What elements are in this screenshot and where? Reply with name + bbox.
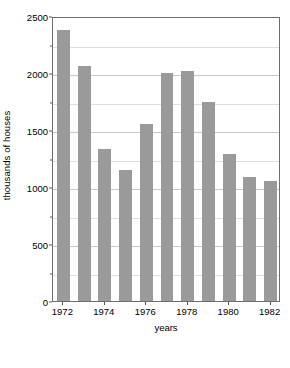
- x-axis-title: years: [52, 322, 280, 333]
- x-axis-tick-mark: [228, 302, 229, 305]
- bar: [161, 73, 174, 301]
- x-axis-tick-label: 1982: [259, 306, 280, 317]
- x-axis-tick-mark: [104, 302, 105, 305]
- x-axis-tick-mark: [62, 302, 63, 305]
- y-axis-title: thousands of houses: [0, 0, 14, 310]
- y-axis-tick-label: 1000: [27, 183, 48, 194]
- y-axis-tick-label: 2500: [27, 12, 48, 23]
- y-axis-tick-label: 2000: [27, 69, 48, 80]
- bar: [57, 30, 70, 301]
- bar: [119, 170, 132, 301]
- x-axis-tick-label: 1980: [218, 306, 239, 317]
- bar: [202, 102, 215, 302]
- x-axis-tick-labels: 197219741976197819801982: [52, 303, 280, 323]
- bar-chart: thousands of houses 05001000150020002500…: [0, 0, 290, 368]
- bar: [98, 149, 111, 301]
- y-axis-tick-label: 0: [43, 297, 48, 308]
- y-axis-tick-label: 500: [32, 240, 48, 251]
- bar: [78, 66, 91, 301]
- y-axis-title-text: thousands of houses: [2, 110, 13, 200]
- x-axis-tick-mark: [270, 302, 271, 305]
- x-axis-tick-label: 1978: [176, 306, 197, 317]
- bar-series: [53, 18, 279, 301]
- bar: [264, 181, 277, 301]
- bar: [223, 154, 236, 301]
- bar: [243, 177, 256, 301]
- x-axis-tick-mark: [187, 302, 188, 305]
- x-axis-tick-label: 1976: [135, 306, 156, 317]
- x-axis-tick-label: 1974: [93, 306, 114, 317]
- x-axis-tick-mark: [145, 302, 146, 305]
- y-axis-tick-label: 1500: [27, 126, 48, 137]
- y-axis-tick-labels: 05001000150020002500: [14, 0, 52, 310]
- plot-area: [52, 17, 280, 302]
- bar: [181, 71, 194, 301]
- x-axis-tick-label: 1972: [52, 306, 73, 317]
- bar: [140, 124, 153, 301]
